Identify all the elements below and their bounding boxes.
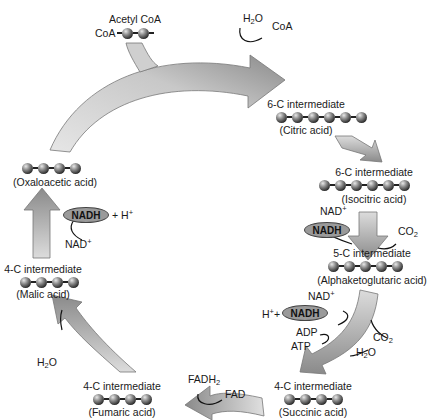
arrow-citric-to-isocitric (335, 136, 382, 162)
oxaloacetic-chain (22, 162, 81, 174)
akg-name: (Alphaketoglutaric acid) (317, 274, 427, 286)
nad-plus-akg: NAD+ (308, 290, 335, 302)
akg-label: 5-C intermediate (333, 247, 411, 259)
fumaric-chain (93, 393, 152, 405)
acetyl-coa-label: Acetyl CoA (109, 13, 161, 25)
coa-out-step1: CoA (272, 20, 292, 32)
nadh-akg: NADH (282, 305, 328, 321)
h2o-fumaric: H2O (37, 356, 57, 368)
acetyl-chain (117, 27, 154, 39)
arrow-fumaric-to-malic (52, 295, 136, 372)
nad-plus-malic: NAD+ (65, 238, 92, 250)
fad-label: FAD (225, 388, 245, 400)
h-plus-malic: + H+ (112, 209, 133, 221)
akg-chain (328, 260, 403, 272)
citric-label: 6-C intermediate (267, 98, 345, 110)
co2-akg: CO2 (373, 331, 393, 343)
fumaric-name: (Fumaric acid) (88, 406, 155, 418)
succinic-chain (284, 393, 343, 405)
h-plus-akg: H++ (262, 308, 280, 320)
citric-name: (Citric acid) (279, 124, 332, 136)
isocitric-label: 6-C intermediate (335, 166, 413, 178)
coa-label: CoA (95, 27, 115, 39)
nadh-isocitric: NADH (304, 222, 350, 238)
nadh-malic: NADH (63, 207, 109, 223)
oxaloacetic-name: (Oxaloacetic acid) (13, 176, 97, 188)
atp-label: ATP (291, 340, 311, 352)
acetyl-coa-feed-arrow (126, 43, 158, 72)
arrow-malic-to-oxaloacetic (24, 188, 60, 258)
citric-chain (276, 111, 367, 123)
nad-plus-isocitric: NAD+ (320, 205, 347, 217)
malic-label: 4-C intermediate (4, 263, 82, 275)
adp-label: ADP (296, 326, 318, 338)
isocitric-name: (Isocitric acid) (342, 193, 407, 205)
h2o-akg: H2O (356, 346, 376, 358)
co2-isocitric: CO2 (398, 225, 418, 237)
arc-oxaloacetic-to-citric (50, 55, 285, 152)
succinic-label: 4-C intermediate (274, 380, 352, 392)
fumaric-label: 4-C intermediate (83, 380, 161, 392)
malic-name: (Malic acid) (16, 288, 70, 300)
succinic-name: (Succinic acid) (279, 406, 347, 418)
malic-chain (20, 276, 79, 288)
fadh2-label: FADH2 (188, 373, 220, 385)
h2o-step1: H2O (243, 12, 263, 24)
isocitric-chain (319, 179, 410, 191)
